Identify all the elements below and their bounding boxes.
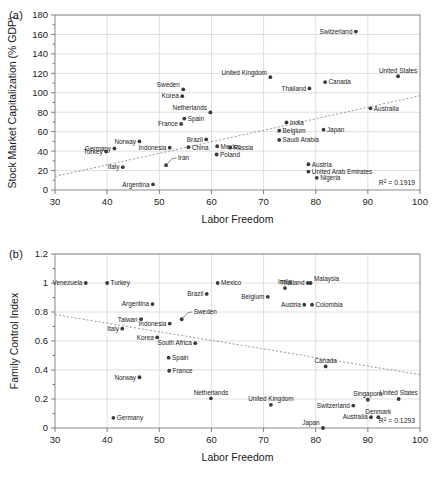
data-point-label: India	[290, 119, 304, 126]
data-point-label: Korea	[162, 92, 179, 99]
data-point: Indonesia	[139, 144, 172, 151]
r-squared-annotation: R2 = 0.1293	[379, 417, 415, 425]
data-point: Austria	[281, 301, 306, 308]
data-point-label: Austria	[281, 301, 301, 308]
data-point: Italy	[107, 325, 124, 333]
data-point-label: Germany	[85, 145, 112, 153]
y-tick-label: 160	[32, 29, 48, 40]
data-point-label: Australia	[343, 413, 368, 420]
data-point-marker	[369, 106, 373, 110]
data-point-label: United Kingdom	[221, 69, 266, 77]
data-point-marker	[105, 281, 109, 285]
x-axis-title: Labor Freedom	[202, 451, 274, 463]
data-point-label: France	[158, 120, 178, 127]
data-point-marker	[113, 146, 117, 150]
y-tick-label: 80	[37, 107, 48, 118]
data-point-label: Canada	[329, 78, 352, 85]
data-point-marker	[168, 146, 172, 150]
data-point-marker	[324, 364, 328, 368]
data-point-label: Germany	[117, 414, 144, 422]
data-point-marker	[209, 396, 213, 400]
data-point-label: Netherlands	[194, 389, 228, 396]
x-tick-label: 80	[310, 196, 321, 207]
data-point-marker	[167, 369, 171, 373]
data-point-marker	[397, 397, 401, 401]
data-point-marker	[277, 129, 281, 133]
data-point: India	[285, 119, 305, 126]
label-leader-line	[182, 312, 193, 319]
data-point: China	[187, 144, 209, 151]
data-point-marker	[269, 403, 273, 407]
y-tick-label: 1	[43, 277, 48, 288]
data-point-label: Italy	[108, 163, 121, 171]
data-point-marker	[366, 398, 370, 402]
x-tick-label: 100	[412, 434, 428, 445]
data-point-marker	[167, 356, 171, 360]
data-point: United Kingdom	[248, 395, 293, 407]
data-point-label: Brazil	[187, 290, 203, 297]
data-point-label: Belgium	[283, 127, 306, 135]
data-point: Australia	[369, 105, 400, 112]
x-tick-label: 40	[102, 434, 113, 445]
y-tick-label: 180	[32, 9, 48, 20]
data-point: Switzerland	[317, 402, 355, 409]
data-point: Netherlands	[173, 104, 213, 115]
data-point-label: Iran	[178, 154, 189, 161]
x-tick-label: 90	[363, 196, 374, 207]
data-point: Indonesia	[139, 320, 172, 327]
data-point: Germany	[85, 145, 117, 153]
y-tick-label: 60	[37, 126, 48, 137]
x-tick-label: 50	[154, 196, 165, 207]
data-point-marker	[120, 327, 124, 331]
x-tick-label: 60	[206, 196, 217, 207]
data-point: Poland	[215, 151, 241, 158]
data-point-marker	[369, 415, 373, 419]
x-tick-label: 30	[50, 434, 61, 445]
data-point-marker	[179, 122, 183, 126]
x-tick-label: 70	[258, 196, 269, 207]
data-point-label: Switzerland	[319, 28, 352, 35]
data-point-label: Spain	[188, 115, 205, 123]
y-tick-label: 0.6	[35, 335, 48, 346]
data-point-label: Thailand	[280, 279, 305, 286]
data-point-label: Austria	[312, 161, 332, 168]
data-point: Sweden	[157, 81, 185, 92]
data-point-marker	[187, 145, 191, 149]
y-tick-label: 100	[32, 87, 48, 98]
y-tick-label: 0	[43, 184, 48, 195]
data-point: Argentina	[122, 300, 155, 308]
data-point-marker	[204, 138, 208, 142]
data-point-marker	[307, 170, 311, 174]
data-point-label: Venezuela	[53, 279, 83, 286]
data-point-label: United States	[379, 67, 417, 74]
data-point: Germany	[112, 414, 144, 422]
data-point-marker	[180, 94, 184, 98]
data-point: Italy	[108, 163, 125, 171]
data-point-label: Belgium	[241, 293, 264, 301]
y-axis-title: Stock Market Capitalization (% GDP)	[6, 16, 18, 188]
data-point-marker	[315, 176, 319, 180]
data-point: Canada	[314, 357, 337, 369]
data-point: Canada	[323, 78, 351, 85]
panel-a: (a) 020406080100120140160180304050607080…	[0, 0, 436, 240]
data-point-label: Sweden	[194, 308, 218, 315]
data-point-marker	[121, 165, 125, 169]
data-point: United Kingdom	[221, 69, 272, 80]
data-point-label: Norway	[114, 374, 136, 382]
data-point-label: Norway	[114, 138, 136, 146]
data-point-label: Australia	[374, 105, 399, 112]
data-point-marker	[283, 286, 287, 290]
data-point-label: China	[192, 144, 209, 151]
data-point-label: United States	[379, 389, 417, 396]
data-point-label: Switzerland	[317, 402, 350, 409]
y-tick-label: 1.2	[35, 248, 48, 259]
data-point-label: Russia	[234, 144, 254, 151]
data-point-marker	[321, 426, 325, 430]
x-axis-title: Labor Freedom	[202, 213, 274, 225]
data-point-marker	[266, 295, 270, 299]
data-point-marker	[208, 111, 212, 115]
data-point-marker	[302, 303, 306, 307]
data-point-label: Canada	[314, 357, 337, 364]
data-point-marker	[351, 404, 355, 408]
data-point: Norway	[114, 374, 141, 382]
